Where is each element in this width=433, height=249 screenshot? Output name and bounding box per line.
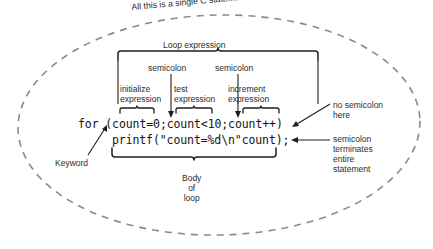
test-expression-brace <box>176 106 212 113</box>
initialize-expression-label: initialize expression <box>120 84 161 104</box>
figure-canvas: All this is a single C statement. Loop e… <box>0 0 433 249</box>
body-of-loop-label: Body of loop <box>182 173 201 203</box>
semicolon-terminates-statement-label: semicolon terminates entire statement <box>333 134 373 174</box>
code-line-printf-statement: printf("count=%d\n"count); <box>112 133 289 147</box>
test-expression-label: test expression <box>174 84 215 104</box>
increment-expression-brace <box>243 106 279 113</box>
increment-expression-label: increment expression <box>228 84 269 104</box>
no-semicolon-leader-line <box>297 104 330 124</box>
initialize-expression-brace <box>120 106 154 113</box>
loop-expression-label: Loop expression <box>163 40 225 50</box>
keyword-label: Keyword <box>55 158 88 168</box>
body-of-loop-brace <box>112 148 276 160</box>
no-semicolon-here-label: no semicolon here <box>333 100 383 120</box>
code-line-for-statement: for (count=0;count<10;count++) <box>78 117 283 131</box>
semicolon-label-first: semicolon <box>148 63 186 73</box>
keyword-leader-line <box>88 130 104 155</box>
semicolon-label-second: semicolon <box>215 63 253 73</box>
semicolon-terminates-arrowhead <box>291 137 298 143</box>
